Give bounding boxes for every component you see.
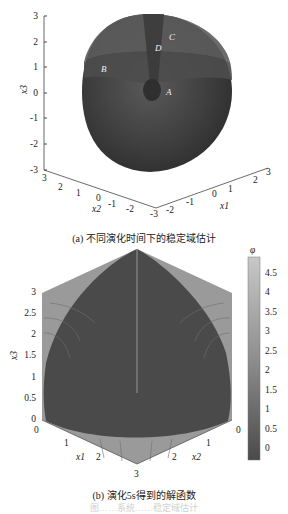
figure-caption-faded: 图……系统……稳定域估计 xyxy=(0,501,288,514)
svg-text:2: 2 xyxy=(265,365,270,375)
svg-text:3: 3 xyxy=(266,167,271,177)
svg-text:0: 0 xyxy=(96,193,101,203)
svg-text:0: 0 xyxy=(33,88,38,98)
x2-axis-label: x2 xyxy=(91,204,101,214)
x1-axis-line xyxy=(156,168,268,208)
svg-text:1.5: 1.5 xyxy=(265,385,277,395)
b-z-axis-label: x3 xyxy=(9,351,19,361)
svg-text:4.5: 4.5 xyxy=(265,268,277,278)
b-x1-axis-label: x1 xyxy=(75,452,85,462)
b-x2-axis-label: x2 xyxy=(191,452,201,462)
svg-text:-3: -3 xyxy=(30,165,38,175)
svg-text:3: 3 xyxy=(134,469,139,479)
colorbar xyxy=(248,257,260,460)
point-label-D: D xyxy=(154,43,162,53)
colorbar-label: φ xyxy=(250,245,255,255)
point-label-A: A xyxy=(165,87,172,97)
svg-text:0.5: 0.5 xyxy=(265,424,277,434)
svg-text:2: 2 xyxy=(31,329,36,339)
svg-text:-1: -1 xyxy=(186,197,194,207)
x1-axis-ticks: -2 -1 0 1 2 3 xyxy=(166,167,271,215)
b-z-axis-ticks: 3 2.5 2 1.5 1 0.5 0 xyxy=(24,287,36,424)
svg-text:1.5: 1.5 xyxy=(24,350,36,360)
svg-text:2: 2 xyxy=(253,175,258,185)
caption-b: (b) 演化5s得到的解函数 xyxy=(0,487,288,502)
svg-text:2.5: 2.5 xyxy=(24,308,36,318)
svg-text:0: 0 xyxy=(212,189,217,199)
panel-a-stability-region: 3 2 1 0 -1 -2 -3 x3 3 2 1 0 -1 -2 -3 x2 … xyxy=(0,0,288,243)
svg-text:4: 4 xyxy=(265,287,270,297)
colorbar-ticks: 4.5 4 3.5 3 2.5 2 1.5 1 0.5 0 xyxy=(265,268,277,453)
svg-text:-2: -2 xyxy=(126,204,134,214)
svg-text:0.5: 0.5 xyxy=(24,393,36,403)
svg-text:2: 2 xyxy=(172,452,177,462)
svg-text:0: 0 xyxy=(236,425,241,435)
svg-text:2: 2 xyxy=(58,182,63,192)
svg-text:3.5: 3.5 xyxy=(265,307,277,317)
svg-text:3: 3 xyxy=(33,11,38,21)
chart-b-cube: 3 2.5 2 1.5 1 0.5 0 x3 0 1 2 3 x1 0 1 2 … xyxy=(0,243,288,503)
svg-text:1: 1 xyxy=(265,404,270,414)
svg-text:-1: -1 xyxy=(108,199,116,209)
panel-b-solution-function: 3 2.5 2 1.5 1 0.5 0 x3 0 1 2 3 x1 0 1 2 … xyxy=(0,243,288,503)
svg-text:1: 1 xyxy=(64,438,69,448)
svg-text:0: 0 xyxy=(34,425,39,435)
svg-text:1: 1 xyxy=(206,438,211,448)
cube-faces xyxy=(42,249,232,464)
svg-text:0: 0 xyxy=(31,414,36,424)
point-label-C: C xyxy=(169,32,176,42)
svg-text:0: 0 xyxy=(265,443,270,453)
svg-text:3: 3 xyxy=(31,287,36,297)
z-axis-ticks: 3 2 1 0 -1 -2 -3 xyxy=(30,11,47,175)
svg-text:3: 3 xyxy=(265,326,270,336)
svg-text:2.5: 2.5 xyxy=(265,346,277,356)
stability-region-surface xyxy=(82,14,232,172)
chart-a-3d: 3 2 1 0 -1 -2 -3 x3 3 2 1 0 -1 -2 -3 x2 … xyxy=(0,0,288,243)
x1-axis-label: x1 xyxy=(219,201,229,211)
svg-text:2: 2 xyxy=(33,37,38,47)
svg-text:2: 2 xyxy=(96,452,101,462)
svg-text:1: 1 xyxy=(31,372,36,382)
svg-text:-1: -1 xyxy=(30,113,38,123)
svg-text:1: 1 xyxy=(228,184,233,194)
z-axis-label: x3 xyxy=(19,85,29,95)
svg-text:-2: -2 xyxy=(30,139,38,149)
svg-text:1: 1 xyxy=(33,62,38,72)
point-label-B: B xyxy=(101,64,107,74)
svg-text:-3: -3 xyxy=(150,209,158,219)
svg-text:1: 1 xyxy=(76,188,81,198)
svg-text:-2: -2 xyxy=(166,205,174,215)
svg-text:3: 3 xyxy=(42,173,47,183)
